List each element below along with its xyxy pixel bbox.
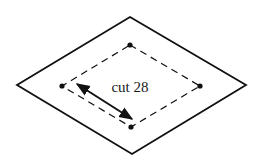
vertex-dot-right <box>197 83 202 88</box>
vertex-dot-top <box>127 42 132 47</box>
vertex-dot-left <box>59 83 64 88</box>
vertex-dot-bottom <box>128 124 133 129</box>
cut-diagram: cut 28 <box>0 0 262 163</box>
cut-label: cut 28 <box>111 79 148 95</box>
